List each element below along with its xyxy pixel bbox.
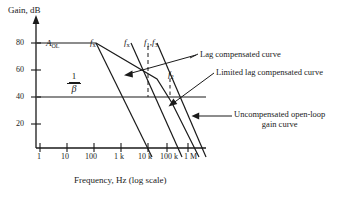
f-subscript: x xyxy=(93,41,96,48)
uncompensated-curve-tail xyxy=(157,43,206,157)
leader-arrow-uncompensated xyxy=(192,113,233,120)
break-freq-label-fx-2: fx xyxy=(124,32,130,48)
f2-subscript: 2 xyxy=(171,73,174,80)
x-axis-title: Frequency, Hz (log scale) xyxy=(74,176,166,185)
x-tick-label-100: 100 xyxy=(85,153,97,161)
y-tick-label-20: 20 xyxy=(16,120,24,128)
break-freq-label-f2: f2 xyxy=(168,64,174,80)
f3-subscript: 3 xyxy=(155,41,158,48)
aol-symbol: A xyxy=(46,38,52,48)
x-tick-label-1M: 1 M xyxy=(184,153,197,161)
y-tick-label-80: 80 xyxy=(16,39,24,47)
plot-canvas xyxy=(0,0,343,204)
break-freq-label-fx-1: fx xyxy=(90,32,96,48)
x-tick-label-1: 1 xyxy=(37,153,41,161)
beta-denominator-wrap: β xyxy=(66,84,82,94)
x-tick-label-10: 10 xyxy=(61,153,69,161)
y-tick-label-40: 40 xyxy=(16,93,24,101)
f-subscript: x xyxy=(127,41,130,48)
beta-overbar xyxy=(67,83,81,84)
annotation-limited-lag-compensated: Limited lag compensated curve xyxy=(216,68,323,77)
beta-numerator: 1 xyxy=(66,72,82,81)
annotation-lag-compensated: Lag compensated curve xyxy=(200,50,281,59)
aol-subscript: OL xyxy=(52,43,60,49)
y-tick-label-60: 60 xyxy=(16,66,24,74)
gain-bode-plot-figure: Gain, dB 80 60 40 20 1 10 100 1 k 10 k 1… xyxy=(0,0,343,204)
leader-arrow-limited-lag xyxy=(169,73,215,107)
y-axis xyxy=(33,15,40,148)
x-tick-label-10k: 10 k xyxy=(138,153,152,161)
aol-label: AOL xyxy=(46,33,60,49)
x-tick-label-100k: 100 k xyxy=(160,153,178,161)
one-over-beta-label: 1 β xyxy=(66,72,82,94)
f1-subscript: 1 xyxy=(147,41,150,48)
x-tick-label-1k: 1 k xyxy=(114,153,124,161)
annotation-uncompensated-line1: Uncompensated open-loop xyxy=(234,110,325,119)
annotation-uncompensated: Uncompensated open-loop gain curve xyxy=(234,110,325,128)
annotation-uncompensated-line2: gain curve xyxy=(234,120,325,129)
beta-denominator: β xyxy=(72,83,77,94)
y-axis-title: Gain, dB xyxy=(8,6,41,15)
break-freq-label-f1-f3: f1,f3 xyxy=(144,32,158,48)
